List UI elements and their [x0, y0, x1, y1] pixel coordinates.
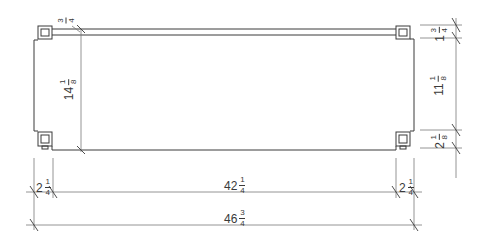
dim-num: 1: [45, 178, 49, 186]
dim-den: 4: [68, 18, 76, 22]
dim-bottom-middle: 42 1 4: [224, 176, 245, 195]
dim-fraction: 3 4: [430, 27, 449, 33]
dim-fraction: 1 8: [59, 79, 78, 85]
dim-num: 3: [430, 28, 438, 32]
dim-overall-width: 46 3 4: [224, 209, 245, 228]
dim-fraction: 1 8: [429, 75, 448, 81]
dim-den: 4: [240, 187, 244, 195]
dim-right-top: 1 3 4: [430, 27, 449, 42]
dim-whole: 2: [399, 182, 406, 194]
dim-bottom-right-post: 2 1 4: [399, 178, 414, 197]
dim-den: 4: [240, 220, 244, 228]
dim-whole: 1: [433, 35, 445, 42]
dim-den: 8: [440, 76, 448, 80]
dim-num: 3: [240, 209, 244, 217]
dim-den: 4: [45, 189, 49, 197]
dim-whole: 2: [36, 182, 43, 194]
dim-den: 4: [441, 28, 449, 32]
dim-left-height: 14 1 8: [59, 79, 78, 100]
dim-num: 1: [240, 176, 244, 184]
dim-whole: 42: [224, 180, 237, 192]
post-top-left: [38, 26, 52, 39]
dim-whole: 46: [224, 213, 237, 225]
dim-num: 1: [430, 135, 438, 139]
dim-right-middle: 11 1 8: [429, 75, 448, 95]
panel-right-edge: [410, 39, 414, 131]
dim-fraction: 1 8: [430, 134, 449, 140]
dim-num: 1: [429, 76, 437, 80]
dim-den: 8: [441, 135, 449, 139]
post-top-right: [396, 26, 410, 39]
dim-den: 8: [70, 80, 78, 84]
dim-fraction: 1 4: [239, 176, 245, 195]
dim-fraction: 3 4: [239, 209, 245, 228]
dim-right-bottom: 2 1 8: [430, 134, 449, 149]
dim-fraction: 1 4: [408, 178, 414, 197]
dim-top-rail-thickness: 3 4: [57, 18, 76, 26]
post-bottom-left: [38, 132, 52, 149]
dim-num: 3: [57, 18, 65, 22]
dim-num: 1: [408, 178, 412, 186]
dim-den: 4: [408, 189, 412, 197]
panel-left-edge: [34, 40, 38, 131]
dim-fraction: 1 4: [45, 178, 51, 197]
dim-num: 1: [59, 80, 67, 84]
dim-fraction: 3 4: [57, 18, 76, 24]
post-bottom-right: [396, 132, 410, 149]
dim-whole: 14: [63, 87, 75, 100]
dim-bottom-left-post: 2 1 4: [36, 178, 51, 197]
dim-whole: 11: [432, 83, 444, 95]
dim-whole: 2: [433, 142, 445, 149]
